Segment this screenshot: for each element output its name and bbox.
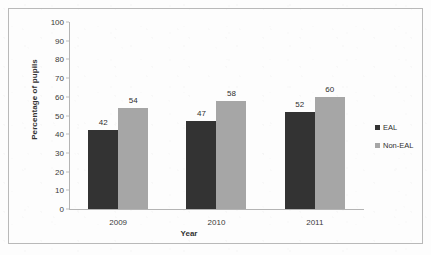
x-axis-title: Year bbox=[9, 229, 369, 238]
y-axis-tick-label: 70 bbox=[55, 74, 64, 83]
bar-value-label: 47 bbox=[197, 109, 206, 118]
y-axis-tick-label: 80 bbox=[55, 55, 64, 64]
x-axis-category-label: 2010 bbox=[167, 218, 265, 227]
bar-group: 52602011 bbox=[266, 22, 364, 209]
bar-group: 42542009 bbox=[69, 22, 167, 209]
x-axis-category-label: 2011 bbox=[266, 218, 364, 227]
y-axis-tick-label: 30 bbox=[55, 148, 64, 157]
y-axis-tick-label: 50 bbox=[55, 111, 64, 120]
bar-non-eal-2009: 54 bbox=[118, 108, 148, 209]
chart-frame: Percentage of pupils Year 01020304050607… bbox=[8, 8, 423, 244]
y-axis-tick-label: 90 bbox=[55, 36, 64, 45]
bar-non-eal-2011: 60 bbox=[315, 97, 345, 209]
bar-value-label: 54 bbox=[129, 96, 138, 105]
bar-group-bars: 4758 bbox=[167, 22, 265, 209]
y-axis-title: Percentage of pupils bbox=[30, 35, 39, 165]
chart-legend: EALNon-EAL bbox=[375, 123, 413, 159]
bar-value-label: 60 bbox=[325, 85, 334, 94]
y-axis-tick-label: 100 bbox=[51, 18, 64, 27]
y-axis-tick-label: 20 bbox=[55, 167, 64, 176]
legend-item: EAL bbox=[375, 123, 413, 132]
x-axis-category-label: 2009 bbox=[69, 218, 167, 227]
bar-value-label: 42 bbox=[99, 118, 108, 127]
bar-eal-2009: 42 bbox=[88, 130, 118, 209]
bar-eal-2011: 52 bbox=[285, 112, 315, 209]
legend-item: Non-EAL bbox=[375, 141, 413, 150]
y-axis-tick-label: 0 bbox=[60, 205, 64, 214]
bar-group-bars: 5260 bbox=[266, 22, 364, 209]
bar-non-eal-2010: 58 bbox=[216, 101, 246, 209]
legend-item-label: Non-EAL bbox=[383, 141, 413, 150]
y-axis-tick-label: 10 bbox=[55, 186, 64, 195]
bar-eal-2010: 47 bbox=[186, 121, 216, 209]
x-axis-line bbox=[69, 209, 364, 210]
legend-swatch-icon bbox=[375, 125, 380, 130]
bar-value-label: 52 bbox=[295, 100, 304, 109]
bar-group: 47582010 bbox=[167, 22, 265, 209]
plot-area: 0102030405060708090100 42542009475820105… bbox=[69, 22, 364, 210]
y-axis-tick-label: 60 bbox=[55, 92, 64, 101]
legend-item-label: EAL bbox=[383, 123, 397, 132]
bar-group-bars: 4254 bbox=[69, 22, 167, 209]
legend-swatch-icon bbox=[375, 143, 380, 148]
bar-value-label: 58 bbox=[227, 89, 236, 98]
y-axis-tick-label: 40 bbox=[55, 130, 64, 139]
